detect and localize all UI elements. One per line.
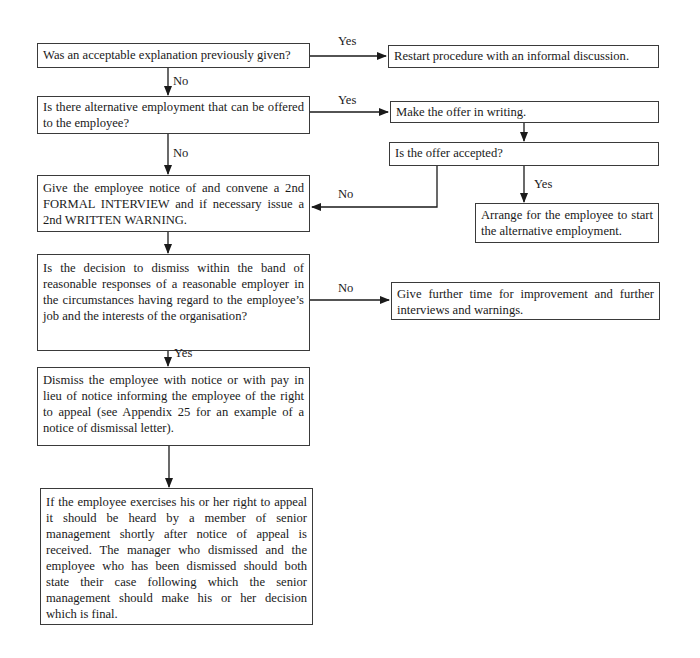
- edge-label-alternative-yes: Yes: [338, 93, 356, 107]
- edge-label-offer-no: No: [338, 187, 353, 201]
- node-right-to-appeal: If the employee exercises his or her rig…: [40, 488, 313, 625]
- node-make-offer-in-writing: Make the offer in writing.: [390, 101, 659, 123]
- node-restart-procedure: Restart procedure with an informal discu…: [388, 45, 659, 68]
- edge-label-explanation-no: No: [173, 74, 188, 88]
- edge-label-alternative-no: No: [173, 146, 188, 160]
- node-offer-accepted-question: Is the offer accepted?: [389, 142, 659, 166]
- node-acceptable-explanation-question: Was an acceptable explanation previously…: [37, 43, 310, 68]
- node-dismiss-employee: Dismiss the employee with notice or with…: [37, 367, 310, 446]
- node-further-time-for-improvement: Give further time for improvement and fu…: [391, 282, 660, 320]
- edge-label-band-yes: Yes: [174, 346, 192, 360]
- node-alternative-employment-question: Is there alternative employment that can…: [37, 96, 310, 134]
- edge-label-explanation-yes: Yes: [338, 34, 356, 48]
- edge-label-band-no: No: [338, 281, 353, 295]
- edge-label-offer-yes: Yes: [534, 177, 552, 191]
- node-arrange-alternative-employment: Arrange for the employee to start the al…: [475, 203, 659, 243]
- node-second-formal-interview: Give the employee notice of and convene …: [37, 175, 310, 232]
- node-band-of-reasonable-responses-question: Is the decision to dismiss within the ba…: [37, 254, 310, 351]
